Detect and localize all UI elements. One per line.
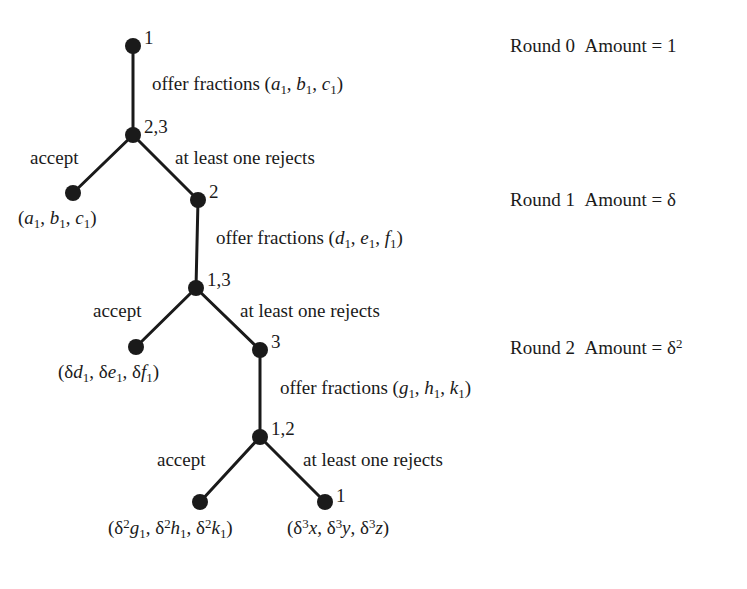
offer-text-prefix-3: offer fractions (	[280, 377, 399, 398]
payoff-paren-close-1: )	[90, 207, 96, 228]
offer-sep-2b: ,	[375, 227, 385, 248]
delta-glyph-2b: δ	[99, 361, 108, 382]
round-gap-1	[575, 189, 585, 210]
node-n4	[252, 342, 268, 358]
round-annotation-0: Round 0 Amount = 1	[510, 36, 676, 56]
payoff-sep-2b: ,	[123, 361, 133, 382]
offer-text-suffix-3: )	[465, 377, 471, 398]
round-label-2: Round 2	[510, 337, 575, 358]
node-n3	[188, 280, 204, 296]
offer-label-round-0: offer fractions (a1, b1, c1)	[152, 74, 343, 94]
amount-label-0: Amount = 1	[584, 35, 676, 56]
payoff-label-round-2-accept: (δ2g1, δ2h1, δ2k1)	[108, 518, 233, 538]
node-n1	[125, 127, 141, 143]
node-n2	[190, 192, 206, 208]
payoff-paren-close-4: )	[383, 517, 389, 538]
node-t3	[192, 494, 208, 510]
edge-n2-n3	[196, 200, 198, 288]
edge-n5-t3	[200, 437, 260, 502]
round-annotation-1: Round 1 Amount = δ	[510, 190, 676, 210]
payoff-sep-3a: ,	[146, 517, 156, 538]
payoff-label-round-1-accept: (δd1, δe1, δf1)	[58, 362, 159, 382]
node-label-player-2: 2	[209, 182, 219, 202]
payoff-sep-4a: ,	[317, 517, 327, 538]
offer-text-suffix-1: )	[337, 73, 343, 94]
delta-glyph-3a: δ	[114, 517, 123, 538]
round-label-0: Round 0	[510, 35, 575, 56]
payoff-paren-close-2: )	[153, 361, 159, 382]
round-label-1: Round 1	[510, 189, 575, 210]
node-t1	[65, 185, 81, 201]
offer-label-round-1: offer fractions (d1, e1, f1)	[216, 228, 403, 248]
offer-sep-1b: ,	[312, 73, 322, 94]
edge-n3-t2	[136, 288, 196, 347]
delta-glyph-4b: δ	[327, 517, 336, 538]
node-label-players-2-3: 2,3	[144, 117, 168, 137]
delta-glyph-4c: δ	[360, 517, 369, 538]
action-label-accept-round-1: accept	[93, 301, 142, 321]
payoff-paren-close-3: )	[226, 517, 232, 538]
offer-label-round-2: offer fractions (g1, h1, k1)	[280, 378, 471, 398]
payoff-sep-4b: ,	[351, 517, 361, 538]
offer-text-suffix-2: )	[396, 227, 402, 248]
node-t4	[317, 494, 333, 510]
delta-glyph-4a: δ	[293, 517, 302, 538]
amount-exponent-2: 2	[676, 336, 682, 351]
payoff-sep-2a: ,	[89, 361, 99, 382]
node-label-terminal-player-1: 1	[336, 486, 346, 506]
amount-text-2: Amount =	[584, 337, 667, 358]
game-tree-figure: 1 2,3 2 1,3 3 1,2 1 offer fractions (a1,…	[0, 0, 747, 589]
edge-n1-t1	[73, 135, 133, 193]
offer-sep-3b: ,	[440, 377, 450, 398]
action-label-reject-round-1: at least one rejects	[240, 301, 380, 321]
delta-glyph-3b: δ	[155, 517, 164, 538]
delta-glyph-3c: δ	[196, 517, 205, 538]
action-label-reject-round-0: at least one rejects	[175, 148, 315, 168]
round-gap-0	[575, 35, 585, 56]
action-label-accept-round-2: accept	[157, 450, 206, 470]
tree-edges	[0, 0, 747, 589]
node-n5	[252, 429, 268, 445]
offer-text-prefix-1: offer fractions (	[152, 73, 271, 94]
payoff-label-round-2-reject: (δ3x, δ3y, δ3z)	[287, 518, 389, 538]
round-gap-2	[575, 337, 585, 358]
payoff-sep-1a: ,	[40, 207, 50, 228]
delta-glyph-2a: δ	[64, 361, 73, 382]
node-label-players-1-3: 1,3	[207, 270, 231, 290]
offer-text-prefix-2: offer fractions (	[216, 227, 335, 248]
payoff-label-round-0-accept: (a1, b1, c1)	[18, 208, 96, 228]
delta-glyph-2c: δ	[132, 361, 141, 382]
offer-sep-2a: ,	[351, 227, 361, 248]
node-label-player-3: 3	[271, 332, 281, 352]
node-t2	[128, 339, 144, 355]
node-label-root-player1: 1	[144, 28, 154, 48]
payoff-sep-3b: ,	[187, 517, 197, 538]
action-label-reject-round-2: at least one rejects	[303, 450, 443, 470]
offer-sep-3a: ,	[415, 377, 425, 398]
delta-glyph-round-2: δ	[667, 337, 676, 358]
node-label-players-1-2: 1,2	[271, 419, 295, 439]
offer-sep-1a: ,	[287, 73, 297, 94]
node-n0	[125, 38, 141, 54]
action-label-accept-round-0: accept	[30, 148, 79, 168]
amount-label-1: Amount = δ	[584, 189, 675, 210]
payoff-sep-1b: ,	[66, 207, 76, 228]
round-annotation-2: Round 2 Amount = δ2	[510, 338, 682, 358]
